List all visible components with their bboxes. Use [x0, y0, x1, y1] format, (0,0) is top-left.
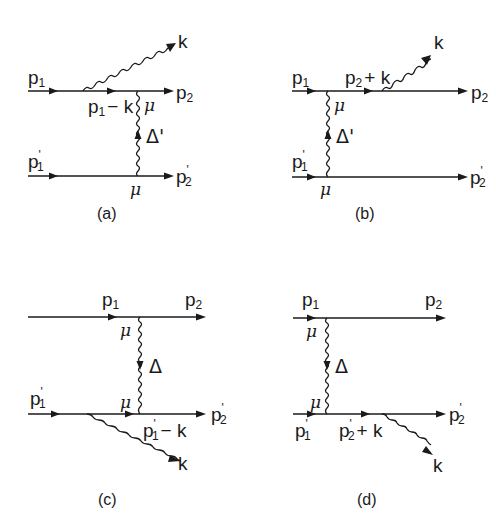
- arrow-icon: [325, 130, 332, 139]
- label-vertex-mu-top: μ: [306, 321, 317, 341]
- label-out-top: p2: [471, 82, 489, 105]
- label-vertex-mu-top: μ: [144, 95, 155, 115]
- caption-a: (a): [97, 205, 117, 222]
- label-out-top: p2: [425, 289, 443, 312]
- label-in-bottom: p'1: [292, 148, 308, 174]
- label-propagator: Δ: [335, 355, 348, 377]
- label-in-top: p1: [302, 289, 320, 312]
- caption-b: (b): [355, 205, 375, 222]
- arrow-icon: [49, 88, 58, 95]
- label-photon-k: k: [434, 32, 444, 53]
- arrow-icon: [135, 130, 142, 139]
- arrow-icon: [137, 361, 144, 370]
- label-propagator: Δ': [146, 125, 164, 147]
- label-out-bottom: p'2: [449, 401, 465, 427]
- arrow-icon: [436, 315, 446, 322]
- arrow-icon: [361, 411, 370, 418]
- label-vertex-mu-bottom: μ: [130, 179, 141, 199]
- label-internal-momentum: p'1− k: [143, 417, 187, 443]
- arrow-icon: [196, 411, 206, 418]
- arrow-icon: [108, 314, 117, 321]
- arrow-icon: [364, 88, 373, 95]
- label-propagator: Δ: [149, 355, 162, 377]
- arrow-icon: [458, 174, 468, 181]
- arrow-icon: [422, 446, 433, 455]
- photon-line: [382, 414, 431, 445]
- label-vertex-mu-top: μ: [120, 320, 131, 340]
- arrow-icon: [458, 88, 468, 95]
- panel-c: p1 p2 p'1 p'2 p'1− k k μ μ Δ (c): [28, 289, 227, 508]
- panel-b: p1 p2 p'1 p'2 p2+ k k μ μ Δ' (b): [292, 32, 489, 222]
- label-in-top: p1: [292, 67, 310, 90]
- arrow-icon: [196, 314, 206, 321]
- label-out-top: p2: [185, 289, 203, 312]
- label-internal-momentum: p2+ k: [345, 67, 391, 90]
- label-out-bottom: p'2: [176, 163, 192, 189]
- feynman-diagrams-figure: p1 p2 p'1 p'2 p1− k k μ μ Δ' (a) p1 p2 p…: [0, 0, 496, 520]
- label-photon-k: k: [178, 31, 188, 52]
- caption-d: (d): [357, 491, 377, 508]
- caption-c: (c): [98, 491, 117, 508]
- label-in-top: p1: [28, 67, 46, 90]
- arrow-icon: [164, 88, 174, 95]
- label-in-bottom: p'1: [28, 148, 44, 174]
- arrow-icon: [166, 43, 176, 52]
- label-vertex-mu-top: μ: [334, 95, 345, 115]
- arrow-icon: [307, 174, 316, 181]
- label-in-bottom: p'1: [30, 385, 46, 411]
- label-out-bottom: p'2: [211, 401, 227, 427]
- label-vertex-mu-bottom: μ: [310, 392, 321, 412]
- label-internal-momentum: p1− k: [88, 96, 134, 119]
- label-vertex-mu-bottom: μ: [320, 179, 331, 199]
- label-propagator: Δ': [336, 125, 354, 147]
- arrow-icon: [436, 411, 446, 418]
- label-in-bottom: p'1: [295, 417, 311, 443]
- label-out-bottom: p'2: [470, 164, 486, 190]
- photon-line: [83, 46, 172, 91]
- label-internal-momentum: p'2+ k: [339, 417, 383, 443]
- label-out-top: p2: [176, 82, 194, 105]
- panel-d: p1 p2 p'1 p'2 p'2+ k k μ μ Δ (d): [293, 289, 465, 508]
- arrow-icon: [49, 173, 58, 180]
- label-photon-k: k: [178, 453, 188, 474]
- label-vertex-mu-bottom: μ: [120, 392, 131, 412]
- label-photon-k: k: [433, 455, 443, 476]
- panel-a: p1 p2 p'1 p'2 p1− k k μ μ Δ' (a): [28, 31, 194, 222]
- label-in-top: p1: [102, 289, 120, 312]
- arrow-icon: [107, 88, 116, 95]
- arrow-icon: [164, 173, 174, 180]
- arrow-icon: [51, 411, 60, 418]
- arrow-icon: [324, 361, 331, 370]
